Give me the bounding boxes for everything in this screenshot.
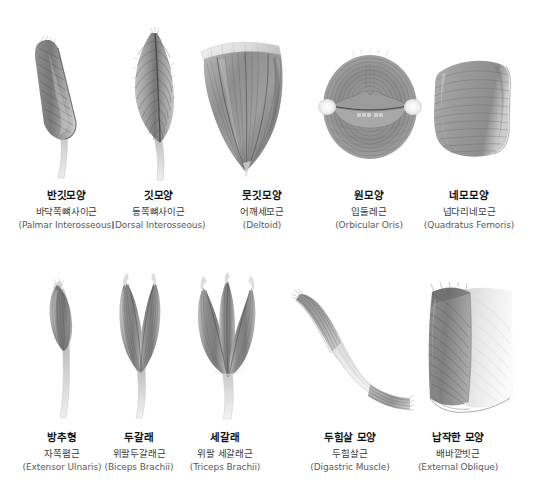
bipennate-muscle-icon xyxy=(110,25,206,183)
unipennate-muscle-icon xyxy=(18,28,114,183)
muscle-name-ko: 어깨세모근 xyxy=(207,207,317,217)
figure-circular-muscle xyxy=(318,48,422,166)
shape-name-ko: 네모모양 xyxy=(405,190,533,201)
muscle-name-ko: 두힘살근 xyxy=(288,449,412,459)
shape-name-ko: 뭇깃모양 xyxy=(207,190,317,201)
digastric-muscle-icon xyxy=(292,288,414,420)
triceps-muscle-icon xyxy=(182,272,278,420)
muscle-name-ko: 등쪽뼈사이근 xyxy=(92,207,225,217)
muscle-name-la: (Deltoid) xyxy=(207,221,317,230)
label-bipennate: 깃모양 등쪽뼈사이근 (Dorsal Interosseous) xyxy=(92,190,225,230)
figure-flat-muscle xyxy=(418,282,522,420)
shape-name-ko: 세갈래 xyxy=(168,432,282,443)
shape-name-ko: 깃모양 xyxy=(92,190,225,201)
muscle-name-ko: 넙다리네모근 xyxy=(405,207,533,217)
figure-multipennate-muscle xyxy=(195,30,295,180)
figure-quadrate-muscle xyxy=(428,48,528,166)
muscle-name-ko: 배바깥빗근 xyxy=(396,449,520,459)
figure-biceps-muscle xyxy=(100,272,184,420)
muscle-name-la: (Triceps Brachii) xyxy=(168,463,282,472)
figure-fusiform-muscle xyxy=(22,275,104,420)
multipennate-muscle-icon xyxy=(195,30,295,180)
label-quadrate: 네모모양 넙다리네모근 (Quadratus Femoris) xyxy=(405,190,533,230)
fusiform-muscle-icon xyxy=(22,275,104,420)
muscle-name-la: (Quadratus Femoris) xyxy=(405,221,533,230)
flat-muscle-icon xyxy=(418,282,522,420)
label-triceps: 세갈래 위팔 세갈래근 (Triceps Brachii) xyxy=(168,432,282,472)
quadrate-muscle-icon xyxy=(428,48,528,166)
muscle-name-la: (External Oblique) xyxy=(396,463,520,472)
shape-name-ko: 두힘살 모양 xyxy=(288,432,412,443)
figure-unipennate-muscle xyxy=(18,28,114,183)
label-multipennate: 뭇깃모양 어깨세모근 (Deltoid) xyxy=(207,190,317,230)
biceps-muscle-icon xyxy=(100,272,184,420)
muscle-name-ko: 위팔 세갈래근 xyxy=(168,449,282,459)
circular-muscle-icon xyxy=(318,48,422,166)
figure-triceps-muscle xyxy=(182,272,278,420)
figure-digastric-muscle xyxy=(292,288,414,420)
shape-name-ko: 납작한 모양 xyxy=(396,432,520,443)
muscle-name-la: (Digastric Muscle) xyxy=(288,463,412,472)
muscle-shapes-figure: 반깃모양 바닥쪽뼈사이근 (Palmar Interosseous) 깃모양 등… xyxy=(0,0,533,504)
label-digastric: 두힘살 모양 두힘살근 (Digastric Muscle) xyxy=(288,432,412,472)
figure-bipennate-muscle xyxy=(110,25,206,183)
muscle-name-la: (Dorsal Interosseous) xyxy=(92,221,225,230)
label-flat: 납작한 모양 배바깥빗근 (External Oblique) xyxy=(396,432,520,472)
